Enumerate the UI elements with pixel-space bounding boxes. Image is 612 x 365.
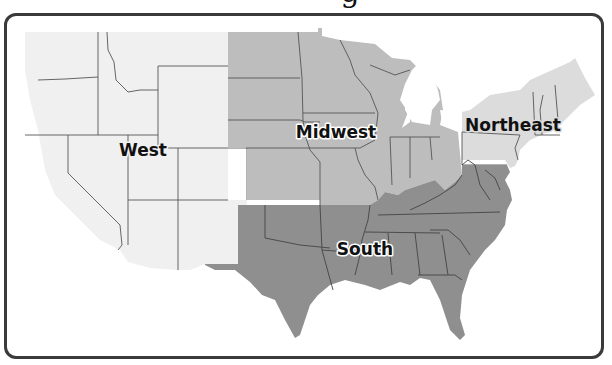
label-northeast: Northeast (465, 115, 561, 135)
label-midwest: Midwest (296, 122, 376, 142)
label-south: South (337, 239, 393, 259)
label-west: West (119, 140, 167, 160)
us-regions-map: West Midwest Northeast South (0, 0, 612, 365)
region-northeast[interactable] (462, 58, 595, 168)
lake-erie (440, 110, 462, 128)
